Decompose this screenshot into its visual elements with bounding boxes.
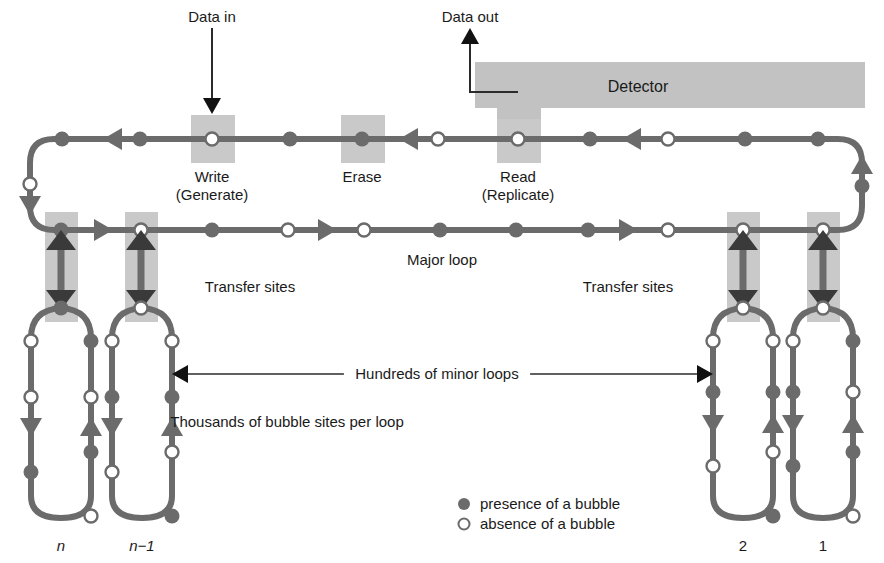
bubble-open [106,466,119,479]
data-in-arrowhead [203,98,221,114]
bubble-open [662,133,675,146]
bubble-open [25,335,38,348]
minor-loop-top-bubble-2 [737,302,750,315]
bubble-filled [105,390,120,405]
bubble-open [166,335,179,348]
bubble-filled [811,132,826,147]
transfer-sites-label-left: Transfer sites [205,278,295,295]
bubble-open [24,178,37,191]
bubble-filled [846,445,861,460]
data-out-label: Data out [442,8,500,25]
bubble-open [707,460,720,473]
erase-label: Erase [342,168,381,185]
minor-loop-arrow-up-n [80,417,102,436]
legend-marker-filled [458,498,470,510]
bubble-filled [84,334,99,349]
legend-item-open: absence of a bubble [459,515,616,532]
bubble-open [85,510,98,523]
legend-item-filled: presence of a bubble [458,495,620,512]
data-out-arrowhead [461,28,479,44]
legend-marker-open [459,519,470,530]
bubble-filled [766,385,781,400]
bubble-open [767,335,780,348]
bubble-filled [786,459,801,474]
shaded-region-layer [45,115,840,322]
detector-box [475,62,865,108]
minor-loop-arrow-up-2 [762,414,784,433]
hundreds-minor-loops-label: Hundreds of minor loops [355,365,518,382]
bubble-open [25,391,38,404]
bubble-open [847,386,860,399]
bubble-filled [581,223,596,238]
write-sublabel: (Generate) [176,186,249,203]
bubble-open [787,335,800,348]
minor-loop-label-n: n [57,537,65,554]
bubble-filled-erase [355,132,370,147]
write-label: Write [195,168,230,185]
minor-loop-arrow-up-1 [842,414,864,433]
bubble-filled [706,385,721,400]
bubble-open-write [206,133,219,146]
minor-loop-top-bubble-n [54,301,69,316]
bubble-open [358,224,371,237]
bubble-open-read [512,133,525,146]
detector-layer [475,62,865,119]
transfer-sites-label-right: Transfer sites [583,278,673,295]
propagation-arrow-left [399,128,418,150]
thousands-bubble-sites-label: Thousands of bubble sites per loop [170,413,404,430]
bubble-open [662,224,675,237]
bubble-filled [205,223,220,238]
minor-loop-top-bubble-1 [817,302,830,315]
minor-loop-track-2 [713,308,773,518]
propagation-arrow-right [619,219,638,241]
major-loop-label: Major loop [407,251,477,268]
bubble-open [166,446,179,459]
data-in-label: Data in [188,8,236,25]
legend-text-filled: presence of a bubble [480,495,620,512]
minor-loop-track-n-1 [112,308,172,518]
bubble-filled [55,132,70,147]
bubble-open [85,391,98,404]
bubble-open [767,446,780,459]
propagation-arrow-right [94,219,113,241]
propagation-arrow-right [318,219,337,241]
bubble-filled [786,385,801,400]
bubble-filled [846,334,861,349]
bubble-memory-diagram: nn−121Hundreds of minor loopsData inData… [0,0,884,563]
propagation-arrow-up [851,155,873,174]
bubble-filled [766,509,781,524]
legend-text-open: absence of a bubble [480,515,615,532]
bubble-open [106,335,119,348]
minor-loop-label-n-1: n−1 [129,537,154,554]
bubble-open [847,510,860,523]
bubble-filled [855,179,870,194]
minor-loop-arrow-down-n [20,418,42,437]
bubble-filled [283,132,298,147]
minor-loop-label-2: 2 [739,537,747,554]
propagation-arrow-left [103,128,122,150]
bubble-filled [509,223,524,238]
minor-loop-arrow-down-2 [702,415,724,434]
propagation-arrow-left [622,128,641,150]
read-sublabel: (Replicate) [482,186,555,203]
track-layer [30,139,862,518]
minor-loop-track-1 [793,308,853,518]
detector-label: Detector [608,78,669,95]
propagation-arrow-down [19,196,41,215]
minor-loop-arrow-down-1 [782,415,804,434]
bubble-filled [165,390,180,405]
minor-loop-track-n [31,308,91,518]
bubble-filled [738,132,753,147]
bubble-filled [133,132,148,147]
minor-loop-top-bubble-n-1 [135,302,148,315]
diagram-canvas: nn−121Hundreds of minor loopsData inData… [0,0,884,563]
minor-loop-label-1: 1 [819,537,827,554]
bubble-filled [583,132,598,147]
bubble-filled [84,445,99,460]
bubble-open [707,335,720,348]
bubble-filled [165,509,180,524]
minor-loop-arrow-down-n-1 [101,418,123,437]
bubble-marker-layer [19,128,873,524]
bubble-filled [433,223,448,238]
bubble-open [432,133,445,146]
